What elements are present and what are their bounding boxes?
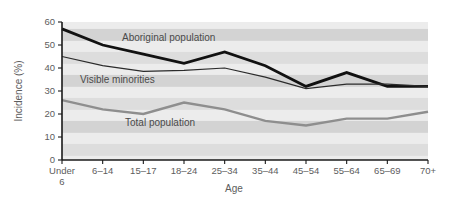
x-axis-title: Age <box>225 183 243 194</box>
gridline-band <box>62 144 428 156</box>
series-label-total-population: Total population <box>125 117 195 128</box>
x-tick-label: 15–17 <box>130 165 156 176</box>
x-tick-label: Under6 <box>49 165 75 187</box>
gridline-band <box>62 121 428 133</box>
chart-figure: 0102030405060 Under66–1415–1718–2425–343… <box>0 0 453 204</box>
y-tick-label: 10 <box>44 131 55 142</box>
gridline-band <box>62 98 428 110</box>
y-tick-label: 20 <box>44 108 55 119</box>
y-tick-label: 60 <box>44 16 55 27</box>
y-tick-label: 40 <box>44 62 55 73</box>
x-tick-label: 6–14 <box>92 165 113 176</box>
series-label-visible-minorities: Visible minorities <box>80 74 155 85</box>
x-tick-label: 35–44 <box>252 165 278 176</box>
gridline-bands <box>62 22 428 160</box>
plot-background <box>62 22 428 160</box>
y-tick-label: 30 <box>44 85 55 96</box>
x-tick-label: 25–34 <box>211 165 237 176</box>
x-tick-label: 65–69 <box>374 165 400 176</box>
gridline-band <box>62 29 428 41</box>
y-axis-title: Incidence (%) <box>13 60 24 121</box>
series-label-aboriginal-population: Aboriginal population <box>122 32 215 43</box>
y-tick-label: 0 <box>50 154 55 165</box>
x-tick-label: 18–24 <box>171 165 197 176</box>
incidence-by-age-line-chart: 0102030405060 Under66–1415–1718–2425–343… <box>0 0 453 204</box>
y-tick-label: 50 <box>44 39 55 50</box>
x-tick-label: 55–64 <box>333 165 359 176</box>
x-tick-label: 45–54 <box>293 165 319 176</box>
y-axis-tick-labels: 0102030405060 <box>44 16 55 165</box>
x-tick-label: 70+ <box>420 165 437 176</box>
